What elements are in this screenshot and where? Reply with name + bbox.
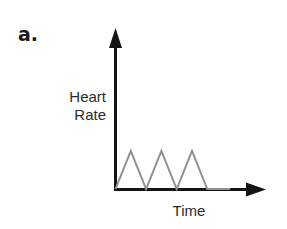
y-axis-arrow-icon (109, 28, 122, 48)
plot-area (0, 0, 287, 229)
figure-panel-a: a. Heart Rate Time (0, 0, 287, 229)
heart-rate-waveform (116, 151, 231, 189)
x-axis-arrow-icon (246, 183, 266, 197)
